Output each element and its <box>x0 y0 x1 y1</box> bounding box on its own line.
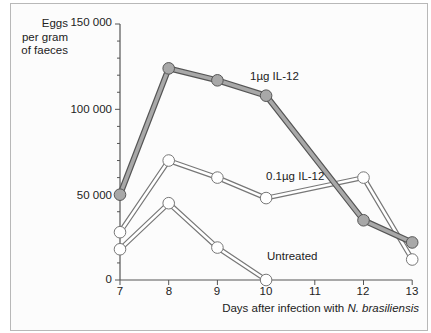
plot-area <box>0 0 431 333</box>
data-point-marker <box>212 242 224 254</box>
data-point-marker <box>260 192 272 204</box>
series-line-outline <box>120 203 266 280</box>
data-point-marker <box>114 226 126 238</box>
data-point-marker <box>358 172 370 184</box>
series-label-untreated: Untreated <box>267 250 318 262</box>
data-point-marker <box>163 63 175 75</box>
data-point-marker <box>212 75 224 87</box>
data-point-marker <box>163 155 175 167</box>
data-point-marker <box>260 274 272 286</box>
data-point-marker <box>114 243 126 255</box>
data-point-marker <box>212 172 224 184</box>
data-point-marker <box>260 90 272 102</box>
data-point-marker <box>163 197 175 209</box>
data-point-marker <box>358 214 370 226</box>
data-point-marker <box>114 189 126 201</box>
series-label-0-1ug: 0.1µg IL-12 <box>266 170 324 182</box>
data-point-marker <box>406 237 418 249</box>
series-line-fill <box>120 203 266 280</box>
series-label-1ug: 1µg IL-12 <box>250 70 299 82</box>
data-point-marker <box>406 254 418 266</box>
